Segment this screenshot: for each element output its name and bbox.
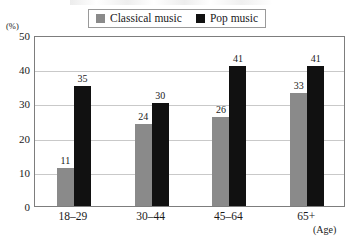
- x-axis-category-labels: 18–2930–4445–6465+: [34, 210, 345, 226]
- legend-entry-pop-music: Pop music: [196, 12, 258, 24]
- x-axis-category-label: 30–44: [136, 210, 165, 223]
- bars-layer: 1135243026413341: [35, 37, 344, 206]
- x-axis-category-label: 65+: [297, 210, 315, 223]
- bar-group-65+: 3341: [290, 37, 324, 206]
- y-axis-tick-label: 40: [6, 65, 30, 76]
- bar-fill: [57, 168, 74, 206]
- bar-value-label: 41: [233, 54, 243, 64]
- bar-group-45-64: 2641: [212, 37, 246, 206]
- y-axis-tick-label: 30: [6, 99, 30, 110]
- bar-group-30-44: 2430: [135, 37, 169, 206]
- y-axis-unit-label: (%): [6, 22, 19, 31]
- x-axis-category-label: 18–29: [59, 210, 88, 223]
- y-axis-tick-label: 10: [6, 168, 30, 179]
- bar-value-label: 26: [216, 105, 226, 115]
- legend-label-classical-music: Classical music: [110, 12, 182, 24]
- scan-artifact-top: [70, 0, 290, 5]
- bar-fill: [212, 117, 229, 206]
- bar-value-label: 24: [138, 112, 148, 122]
- bar-fill: [152, 103, 169, 206]
- chart-legend: Classical music Pop music: [88, 9, 266, 28]
- y-axis-tick-label: 50: [6, 31, 30, 42]
- bar-fill: [229, 66, 246, 206]
- bar-value-label: 30: [155, 91, 165, 101]
- bar-fill: [307, 66, 324, 206]
- bar-fill: [290, 93, 307, 206]
- bar-value-label: 35: [77, 74, 87, 84]
- legend-entry-classical-music: Classical music: [96, 12, 182, 24]
- bar-fill: [135, 124, 152, 206]
- plot-area: 1135243026413341: [34, 36, 345, 207]
- x-axis-unit-label: (Age): [313, 224, 336, 235]
- legend-swatch-icon-classical-music: [96, 14, 105, 23]
- bar-value-label: 41: [311, 54, 321, 64]
- bar-value-label: 11: [61, 156, 71, 166]
- y-axis-tick-labels: 50403020100: [4, 36, 30, 207]
- bar-group-18-29: 1135: [57, 37, 91, 206]
- y-axis-tick-label: 0: [6, 202, 30, 213]
- bar-value-label: 33: [294, 81, 304, 91]
- legend-swatch-icon-pop-music: [196, 14, 205, 23]
- y-axis-tick-label: 20: [6, 134, 30, 145]
- x-axis-category-label: 45–64: [214, 210, 243, 223]
- bar-fill: [74, 86, 91, 206]
- legend-label-pop-music: Pop music: [210, 12, 258, 24]
